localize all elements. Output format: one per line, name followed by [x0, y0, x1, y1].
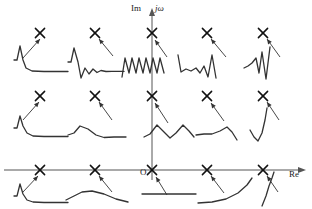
imaginary-axis-label: Im — [131, 4, 141, 13]
pole-marker-p-r2c4 — [202, 91, 211, 100]
slow-decay-response — [14, 116, 68, 137]
exponential-growth-response — [198, 178, 252, 203]
arrow-to-pole-r3c3-head — [156, 177, 161, 182]
arrow-to-pole-r2c4-head — [211, 103, 216, 108]
s-plane-pole-response-figure: Im jω Re O — [0, 0, 312, 209]
fast-decay-response — [14, 46, 68, 72]
fast-exponential-decay-response — [14, 184, 68, 203]
waveform-group — [14, 46, 274, 206]
slow-growing-oscillation-response — [196, 127, 237, 140]
slow-exponential-decay-response — [66, 191, 128, 202]
pole-marker-p-r1c2 — [90, 28, 99, 37]
real-axis-arrowhead — [298, 167, 306, 173]
origin-label: O — [140, 168, 147, 177]
fast-growing-response — [244, 47, 270, 79]
jomega-axis-label: jω — [155, 4, 164, 13]
arrow-to-pole-r2c2-head — [99, 102, 104, 107]
pole-marker-p-r2c1 — [35, 91, 44, 100]
arrow-to-pole-r2c3-head — [155, 103, 160, 108]
damped-oscillation-response — [68, 48, 124, 78]
pole-marker-p-r1c1 — [35, 28, 44, 37]
pole-marker-p-r2c5 — [258, 91, 267, 100]
pole-marker-p-r2c2 — [90, 91, 99, 100]
arrow-to-pole-r2c5-head — [267, 102, 272, 107]
slow-damped-oscillation-response — [68, 126, 126, 138]
arrow-to-pole-r3c4-head — [211, 176, 216, 181]
growing-exponential-response — [250, 108, 267, 141]
pole-marker-p-r1c5 — [258, 28, 267, 37]
figure-canvas — [0, 0, 312, 209]
arrow-to-pole-r1c5-head — [267, 39, 272, 44]
real-axis-label: Re — [289, 170, 299, 179]
pole-marker-p-r1c4 — [202, 28, 211, 37]
arrow-to-pole-r1c3-head — [155, 40, 160, 45]
growing-oscillation-response — [178, 55, 216, 78]
sustained-oscillation-response — [122, 58, 164, 77]
